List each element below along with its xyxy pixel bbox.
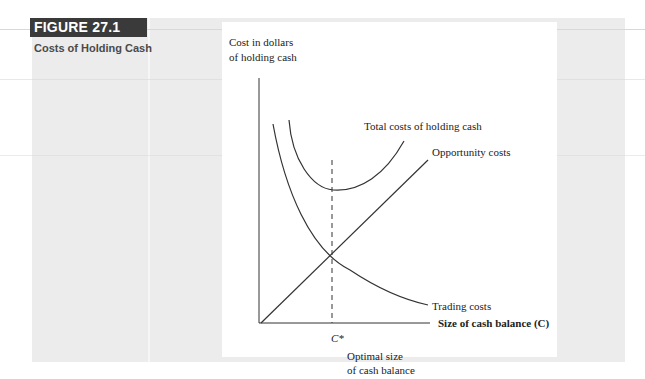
trading-costs-curve [273, 124, 428, 305]
optimal-label-line1: Optimal size [347, 350, 403, 362]
c-star-label: C* [331, 332, 344, 344]
opportunity-costs-label: Opportunity costs [432, 146, 511, 158]
y-axis-label-line2: of holding cash [229, 51, 297, 63]
x-axis-label: Size of cash balance (C) [438, 317, 550, 330]
total-costs-label: Total costs of holding cash [364, 120, 482, 132]
optimal-label-line2: of cash balance [347, 364, 415, 376]
opportunity-costs-line [261, 160, 428, 323]
chart-plot: Cost in dollars of holding cash Total co… [0, 0, 645, 379]
trading-costs-label: Trading costs [432, 300, 491, 312]
y-axis-label-line1: Cost in dollars [229, 36, 293, 48]
